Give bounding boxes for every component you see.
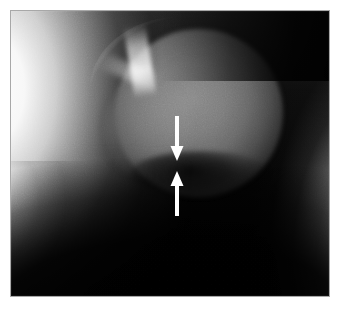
iliac-ridge-line [96,52,159,90]
inferior-crescent-arc [187,143,283,201]
upper-arrow-shaft [175,116,179,146]
figure-root [0,0,339,311]
acetabular-roof-arc [89,17,267,167]
plate-inner-edge [11,11,329,296]
upper-arrow-head [171,146,184,161]
lower-arrow-shaft [175,186,179,216]
upper-arrow [171,116,184,161]
medial-lobe-rim [95,73,195,183]
femoral-head-rim [113,27,285,199]
lower-arrow-head [171,171,184,186]
right-bright-band-region [235,41,329,296]
inferior-dark-field [11,156,329,296]
medial-lobe-region [99,77,191,177]
film-grain-texture [11,11,329,296]
lower-soft-tissue-haze [47,161,177,296]
iliac-spur-line [124,24,157,99]
soft-tissue-base-layer [11,11,329,296]
femoral-head-region [115,29,283,197]
joint-space-region [131,151,271,197]
superior-dark-field [161,11,329,81]
annotation-arrow-group [11,11,329,296]
left-bright-band-region [11,11,181,296]
lower-arrow [171,171,184,216]
xray-plate [11,11,329,296]
left-band-taper-region [11,161,131,296]
xray-frame [10,10,330,297]
